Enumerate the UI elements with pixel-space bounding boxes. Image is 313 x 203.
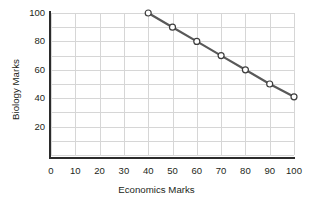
x-tick-label: 10 [70,166,81,176]
data-point-marker [170,24,176,30]
gridline-vertical [294,13,295,155]
y-axis-line [49,11,51,159]
data-point-marker [145,10,151,16]
y-tick-label: 80 [0,36,45,46]
data-point-marker [267,81,273,87]
data-point-marker [194,38,200,44]
y-tick-label: 60 [0,65,45,75]
x-tick-label: 20 [94,166,105,176]
x-tick-label: 50 [167,166,178,176]
scatter-line-chart: 20406080100 0102030405060708090100 Econo… [0,0,313,203]
x-tick-label: 0 [48,166,53,176]
x-tick-label: 40 [143,166,154,176]
gridline-horizontal [51,155,294,156]
x-tick-label: 80 [240,166,251,176]
x-axis-line [49,157,295,159]
x-tick-label: 70 [216,166,227,176]
x-tick-label: 30 [119,166,130,176]
data-series-layer [51,13,294,155]
plot-area [51,13,294,155]
data-point-marker [291,94,297,100]
data-point-marker [218,53,224,59]
y-tick-label: 40 [0,93,45,103]
x-tick-label: 90 [264,166,275,176]
data-point-marker [242,67,248,73]
y-tick-label: 20 [0,122,45,132]
y-axis-title: Biology Marks [10,48,21,132]
x-tick-label: 100 [286,166,302,176]
x-axis-title: Economics Marks [0,184,313,195]
y-tick-label: 100 [0,8,45,18]
x-tick-label: 60 [192,166,203,176]
